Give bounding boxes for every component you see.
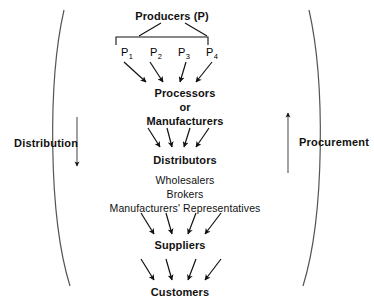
producer-item-p1-base: P xyxy=(121,46,128,58)
node-label-suppliers: Suppliers xyxy=(154,240,205,251)
producer-item-p4-sub: 4 xyxy=(214,52,218,61)
node-label-brokers: Brokers xyxy=(167,189,204,200)
producer-item-p2-base: P xyxy=(150,46,157,58)
node-label-processors: Processors xyxy=(155,88,216,99)
side-label-distribution: Distribution xyxy=(14,138,78,149)
producer-item-p3-sub: 3 xyxy=(186,52,190,61)
arrows-processors-to-distributors xyxy=(148,128,209,147)
node-label-processors-or: or xyxy=(179,102,190,113)
producer-item-p4-base: P xyxy=(206,46,213,58)
producer-item-p1-sub: 1 xyxy=(129,52,133,61)
node-label-producers: Producers (P) xyxy=(135,11,208,22)
node-label-wholesalers: Wholesalers xyxy=(156,175,215,186)
producers-v-connector xyxy=(139,23,207,36)
producer-item-p4: P4 xyxy=(206,47,218,58)
right-boundary-curve xyxy=(303,10,320,286)
node-label-manufacturers: Manufacturers xyxy=(146,116,223,127)
arrows-suppliers-to-customers xyxy=(141,259,221,280)
producer-item-p3: P3 xyxy=(178,47,190,58)
producer-item-p1: P1 xyxy=(121,47,133,58)
node-label-distributors: Distributors xyxy=(153,155,217,166)
producer-item-p2: P2 xyxy=(150,47,162,58)
arrows-distributors-to-suppliers xyxy=(141,213,221,234)
producer-item-p3-base: P xyxy=(178,46,185,58)
node-label-customers: Customers xyxy=(151,287,209,298)
arrows-producers-to-processors xyxy=(124,62,212,82)
side-label-procurement: Procurement xyxy=(299,137,369,148)
node-label-manufacturers-representatives: Manufacturers' Representatives xyxy=(110,203,261,214)
supply-chain-diagram: Producers (P) P1 P2 P3 P4 Processors or … xyxy=(0,0,374,305)
diagram-vector-layer xyxy=(0,0,374,305)
producers-bracket xyxy=(116,37,208,45)
producer-item-p2-sub: 2 xyxy=(158,52,162,61)
